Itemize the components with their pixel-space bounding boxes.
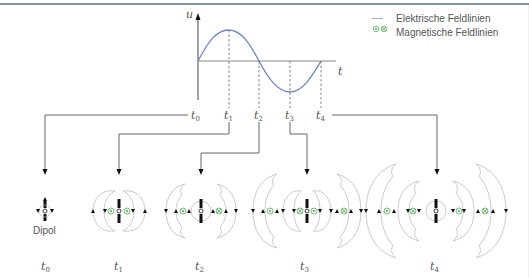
feed-point-icon (43, 209, 47, 213)
legend-item-electric: Elektrische Feldlinien (372, 11, 498, 25)
connector-arrowheads (43, 169, 440, 175)
time-marker-t4: t4 (316, 110, 325, 125)
legend-label: Elektrische Feldlinien (396, 13, 491, 24)
arrow-down-icon (435, 169, 440, 175)
legend-label: Magnetische Feldlinien (396, 27, 498, 38)
panel-time-t2: t2 (195, 261, 204, 276)
time-marker-t1: t1 (224, 110, 233, 125)
connector-lines (45, 115, 437, 170)
time-marker-t3: t3 (285, 110, 294, 125)
time-marker-t0: t0 (191, 110, 200, 125)
arrow-down-icon (199, 169, 204, 175)
dipole-panel-t3 (251, 174, 363, 248)
electric-line-icon (372, 18, 386, 19)
arrow-down-icon (117, 169, 122, 175)
legend: Elektrische Feldlinien Magnetische Feldl… (372, 11, 498, 39)
time-marker-t2: t2 (254, 110, 263, 125)
panel-time-t4: t4 (430, 261, 439, 276)
field-arrow-up-icon (43, 197, 47, 201)
dipole-panel-t1 (91, 191, 147, 231)
dipole-rod-bottom (44, 214, 47, 221)
panel-time-t3: t3 (300, 261, 309, 276)
dipole-caption: Dipol (33, 225, 56, 236)
y-axis-arrow-icon (196, 13, 201, 20)
diagram-canvas (0, 0, 529, 278)
y-axis-label: u (186, 9, 193, 20)
dipole-panel-t4 (364, 164, 508, 258)
dipole-panel-t0 (36, 197, 54, 221)
diagram-frame: u t t0 t1 t2 t3 t4 Elektrische Feldlinie… (0, 0, 529, 278)
arrow-down-icon (43, 169, 48, 175)
arrow-down-icon (305, 169, 310, 175)
dipole-panel-t2 (164, 184, 238, 238)
dipole-rod-top (44, 201, 47, 208)
voltage-plot (196, 13, 337, 108)
legend-item-magnetic: Magnetische Feldlinien (372, 25, 498, 39)
panel-time-t0: t0 (41, 261, 50, 276)
panel-time-t1: t1 (114, 261, 123, 276)
x-axis-label: t (338, 66, 342, 77)
